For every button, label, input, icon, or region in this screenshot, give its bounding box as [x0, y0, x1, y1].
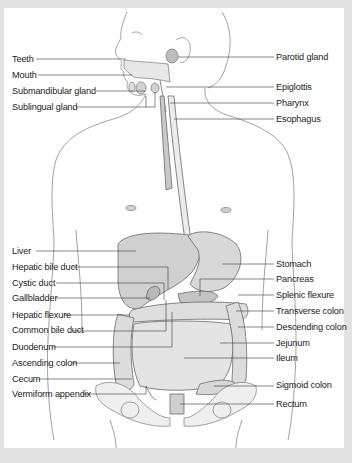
- label-hepatic-flexure: Hepatic flexure: [12, 310, 71, 320]
- label-submandibular-gland: Submandibular gland: [12, 86, 96, 96]
- label-descending-colon: Descending colon: [276, 322, 347, 332]
- label-teeth: Teeth: [12, 54, 34, 64]
- label-esophagus: Esophagus: [276, 114, 321, 124]
- nipple-left: [126, 206, 136, 211]
- back-of-head: [208, 12, 230, 88]
- label-pharynx: Pharynx: [276, 98, 309, 108]
- label-transverse-colon: Transverse colon: [276, 306, 344, 316]
- label-liver: Liver: [12, 246, 31, 256]
- femur-head-left: [121, 402, 139, 418]
- ascending-colon: [113, 314, 134, 390]
- label-common-bile-duct: Common bile duct: [12, 325, 84, 335]
- eye: [132, 32, 142, 35]
- label-cystic-duct: Cystic duct: [12, 278, 55, 288]
- diagram-frame: Teeth Mouth Submandibular gland Sublingu…: [0, 0, 352, 463]
- oral-cavity: [124, 60, 170, 82]
- label-ascending-colon: Ascending colon: [12, 358, 77, 368]
- label-cecum: Cecum: [12, 374, 40, 384]
- label-rectum: Rectum: [276, 399, 307, 409]
- label-pancreas: Pancreas: [276, 274, 314, 284]
- label-epiglottis: Epiglottis: [276, 82, 312, 92]
- nipple-right: [221, 208, 231, 213]
- label-gallbladder: Gallbladder: [12, 293, 57, 303]
- sublingual-gland: [151, 83, 159, 93]
- small-intestine: [132, 321, 233, 390]
- label-parotid-gland: Parotid gland: [276, 52, 328, 62]
- label-ileum: Ileum: [276, 353, 298, 363]
- label-vermiform-appendix: Vermiform appendix: [12, 389, 91, 399]
- label-duodenum: Duodenum: [12, 342, 56, 352]
- label-stomach: Stomach: [276, 259, 311, 269]
- label-sigmoid-colon: Sigmoid colon: [276, 380, 332, 390]
- label-mouth: Mouth: [12, 70, 37, 80]
- label-jejunum: Jejunum: [276, 338, 310, 348]
- ear: [176, 38, 190, 63]
- label-sublingual-gland: Sublingual gland: [12, 102, 78, 112]
- submandibular-gland: [136, 82, 146, 94]
- label-hepatic-bile-duct: Hepatic bile duct: [12, 262, 77, 272]
- parotid-gland: [166, 49, 178, 63]
- femur-head-right: [213, 402, 231, 418]
- label-splenic-flexure: Splenic flexure: [276, 290, 334, 300]
